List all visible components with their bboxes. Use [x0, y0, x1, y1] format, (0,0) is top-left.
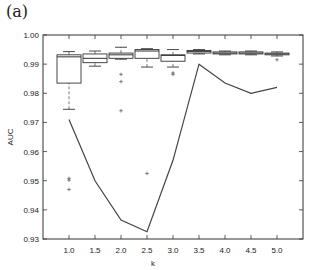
y-axis-label: AUC — [6, 128, 15, 145]
box — [109, 53, 133, 58]
y-tick-label: 0.95 — [23, 177, 39, 186]
y-tick-label: 0.93 — [23, 235, 39, 244]
x-tick-label: 1.0 — [63, 246, 75, 255]
auc-chart: 0.930.940.950.960.970.980.991.001.01.52.… — [0, 0, 314, 270]
x-axis-label: k — [151, 259, 156, 268]
x-tick-label: 5.0 — [271, 246, 283, 255]
x-tick-label: 3.5 — [193, 246, 205, 255]
x-tick-label: 4.0 — [219, 246, 231, 255]
y-tick-label: 1.00 — [23, 31, 39, 40]
x-tick-label: 2.0 — [115, 246, 127, 255]
auc-line — [69, 64, 277, 232]
x-tick-label: 4.5 — [245, 246, 257, 255]
y-tick-label: 0.98 — [23, 89, 39, 98]
x-tick-label: 2.5 — [141, 246, 153, 255]
x-tick-label: 1.5 — [89, 246, 101, 255]
y-tick-label: 0.97 — [23, 118, 39, 127]
box — [57, 55, 81, 83]
y-tick-label: 0.96 — [23, 148, 39, 157]
y-tick-label: 0.99 — [23, 60, 39, 69]
plot-area: 0.930.940.950.960.970.980.991.001.01.52.… — [6, 31, 303, 268]
x-tick-label: 3.0 — [167, 246, 179, 255]
y-tick-label: 0.94 — [23, 206, 39, 215]
